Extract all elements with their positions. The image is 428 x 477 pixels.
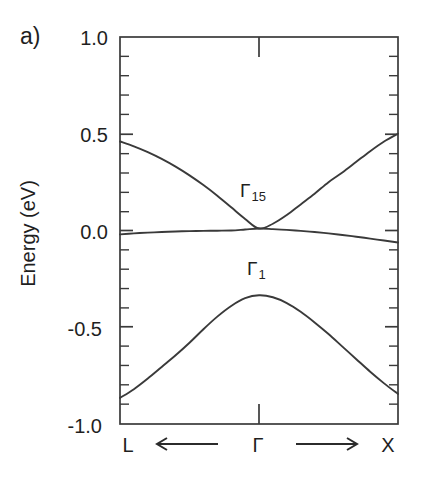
y-major-ticks-right bbox=[385, 134, 398, 327]
band-curve-2 bbox=[120, 295, 398, 398]
gamma15-symbol: Γ bbox=[240, 180, 250, 201]
y-tick-label-5: -1.0 bbox=[40, 415, 102, 438]
y-axis-title: Energy (eV) bbox=[17, 154, 40, 314]
x-axis-label-Gamma: Γ bbox=[248, 434, 268, 457]
gamma15-subscript: 15 bbox=[251, 189, 265, 204]
y-tick-label-4: -0.5 bbox=[40, 318, 102, 341]
gamma1-symbol: Γ bbox=[247, 258, 257, 279]
y-major-ticks-left bbox=[120, 134, 133, 327]
left-arrow-icon bbox=[157, 438, 218, 450]
band-structure-figure: a) Energy (eV) 1.0 0.5 0.0 -0.5 -1.0 L Γ… bbox=[0, 0, 428, 477]
right-arrow-icon bbox=[296, 438, 357, 450]
gamma1-subscript: 1 bbox=[258, 267, 265, 282]
panel-label: a) bbox=[20, 23, 40, 50]
band-label-gamma1: Γ1 bbox=[247, 258, 265, 280]
x-axis-label-X: X bbox=[378, 434, 398, 457]
band-label-gamma15: Γ15 bbox=[240, 180, 265, 202]
x-axis-label-L: L bbox=[118, 434, 138, 457]
y-tick-label-2: 0.5 bbox=[46, 124, 108, 147]
y-tick-label-3: 0.0 bbox=[46, 221, 108, 244]
y-tick-label-1: 1.0 bbox=[46, 27, 108, 50]
band-curve-1 bbox=[120, 229, 398, 243]
